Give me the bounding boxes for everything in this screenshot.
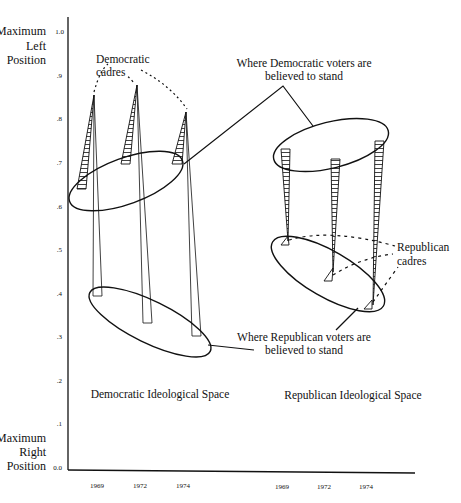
y-axis-top-label: Maximum Left Position [0,24,47,67]
annotation-line: believed to stand [265,70,343,82]
year-label: 1969 [90,482,105,490]
rep-voter-ladder-1969 [281,149,290,241]
top-label-line1: Maximum [0,24,47,38]
rep-cadre-marker-1974 [364,300,372,309]
x-axis-years-republican: 1969 1972 1974 [275,483,374,491]
top-label-line3: Position [7,53,46,67]
rep-voters-annotation: Where Republican voters are believed to … [237,331,371,356]
rep-cadres-annotation: Republican cadres [397,241,450,267]
annotation-line: Where Democratic voters are [236,57,371,69]
tick-9: .9 [57,72,63,80]
annotation-line: Republican [397,241,450,254]
tick-4: .4 [57,290,63,298]
year-label: 1972 [133,482,148,490]
rep-voter-ladder-1972 [331,159,340,272]
top-label-line2: Left [26,39,47,53]
bottom-label-line3: Position [7,459,46,473]
tick-5: .5 [57,246,63,254]
x-axis-line [68,470,415,473]
bottom-label-line2: Right [19,445,46,459]
tick-1: .1 [57,420,63,428]
y-axis-bottom-label: Maximum Right Position [0,431,47,473]
annotation-line: cadres [96,66,126,78]
republican-space-label: Republican Ideological Space [284,389,421,402]
year-label: 1972 [317,483,332,491]
tick-8: .8 [57,115,63,123]
rep-voter-ladder-1974 [373,141,384,305]
rep-voters-leader-line-left [208,345,254,350]
year-label: 1974 [359,483,374,491]
rep-cadres-pointer-1 [289,235,395,246]
dem-voter-bar-1974 [186,112,201,336]
x-axis-years-democratic: 1969 1972 1974 [90,482,191,490]
year-label: 1969 [275,483,290,491]
annotation-line: Democratic [96,53,150,65]
republican-bars [281,141,384,309]
dem-voter-bar-1969 [93,95,102,296]
tick-3: .3 [57,333,63,341]
tick-0: 0.0 [53,464,62,472]
figure-canvas: Maximum Left Position Maximum Right Posi… [0,0,461,503]
dem-cadres-pointer-2 [127,76,133,82]
tick-2: .2 [57,377,63,385]
annotation-line: believed to stand [265,344,343,356]
year-label: 1974 [176,482,191,490]
y-axis-ticks: 0.0 .1 .2 .3 .4 .5 .6 .7 .8 .9 1.0 [53,28,64,472]
dem-cadres-pointer-3 [141,70,187,109]
rep-voters-leader-line-right [336,308,358,330]
tick-7: .7 [57,159,63,167]
tick-10: 1.0 [55,28,64,36]
dem-cadre-ladder-1969 [77,95,94,189]
rep-cadres-pointer-2 [333,254,393,275]
tick-6: .6 [57,203,63,211]
annotation-line: Where Republican voters are [237,331,371,344]
democratic-space-label: Democratic Ideological Space [91,388,230,401]
dem-voters-annotation: Where Democratic voters are believed to … [236,57,371,82]
dem-cadres-annotation: Democratic cadres [96,53,150,78]
dem-cadre-ladder-1972 [121,85,137,164]
bottom-label-line1: Maximum [0,431,47,445]
dem-voters-leader-line [184,86,313,164]
dem-voter-bar-1972 [137,85,152,323]
rep-cadre-marker-1972 [324,268,333,281]
annotation-line: cadres [397,255,427,267]
